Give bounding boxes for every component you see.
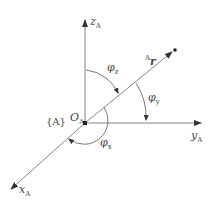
y-axis-label: yA [191,130,202,144]
phi-y-label: φy [148,92,160,106]
r-endpoint [173,48,177,52]
x-axis [11,123,85,189]
z-axis-label: zA [90,16,101,30]
r-vector-label: Ar [145,55,156,67]
phi-z-label: φz [107,62,118,76]
phi-y-arc [136,83,146,120]
coordinate-frame-diagram: zA yA xA Ar φz φy φx {A} OA [0,0,221,204]
origin-label: OA [70,112,84,126]
x-axis-label: xA [19,184,30,198]
diagram-graphics [0,0,221,204]
frame-label: {A} [46,117,66,127]
r-vector [85,52,172,123]
phi-x-label: φx [100,137,112,151]
